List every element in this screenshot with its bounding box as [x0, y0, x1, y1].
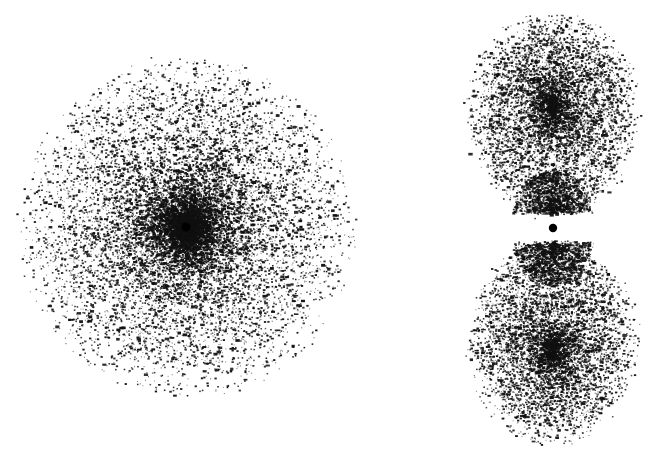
- panel-left-spherical-orbital: [21, 60, 353, 396]
- panel-right-dumbbell-orbital: [466, 13, 640, 444]
- figure-root: · · · ·· · ··· ·· ···· · · ·· ··· ·· ···: [0, 0, 667, 471]
